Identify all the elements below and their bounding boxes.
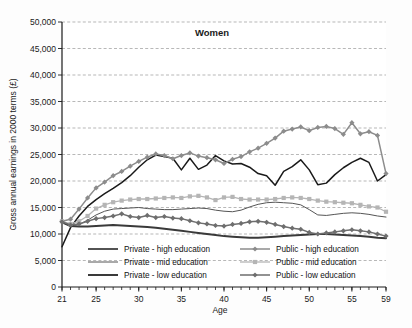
x-tick-label: 55	[347, 294, 357, 304]
data-point-marker	[103, 203, 107, 207]
data-point-marker	[299, 196, 303, 200]
data-point-marker	[324, 200, 328, 204]
data-point-marker	[316, 199, 320, 203]
x-tick-label: 25	[91, 294, 101, 304]
y-tick-label: 15,000	[30, 203, 56, 213]
x-tick-label: 50	[305, 294, 315, 304]
data-point-marker	[205, 195, 209, 199]
data-point-marker	[282, 196, 286, 200]
data-point-marker	[341, 201, 345, 205]
data-point-marker	[273, 197, 277, 201]
legend-label-4: Public - mid education	[276, 258, 357, 267]
data-point-marker	[111, 200, 115, 204]
x-tick-label: 21	[57, 294, 67, 304]
data-point-marker	[350, 201, 354, 205]
legend-label-3: Public - high education	[276, 245, 359, 254]
chart-figure: 05,00010,00015,00020,00025,00030,00035,0…	[0, 0, 412, 328]
data-point-marker	[333, 200, 337, 204]
y-tick-label: 5,000	[35, 256, 57, 266]
y-tick-label: 20,000	[30, 176, 56, 186]
data-point-marker	[290, 195, 294, 199]
data-point-marker	[120, 199, 124, 203]
y-tick-label: 50,000	[30, 17, 56, 27]
y-tick-label: 25,000	[30, 150, 56, 160]
x-tick-label: 35	[177, 294, 187, 304]
legend-label-0: Private - high education	[124, 245, 210, 254]
x-tick-label: 45	[262, 294, 272, 304]
x-tick-label: 30	[134, 294, 144, 304]
y-tick-label: 45,000	[30, 44, 56, 54]
data-point-marker	[239, 197, 243, 201]
y-tick-label: 10,000	[30, 229, 56, 239]
y-tick-label: 0	[51, 282, 56, 292]
data-point-marker	[265, 197, 269, 201]
legend-label-2: Private - low education	[124, 271, 207, 280]
y-tick-label: 40,000	[30, 70, 56, 80]
data-point-marker	[253, 260, 257, 264]
data-point-marker	[222, 195, 226, 199]
legend-label-1: Private - mid education	[124, 258, 208, 267]
data-point-marker	[256, 197, 260, 201]
data-point-marker	[128, 197, 132, 201]
x-axis-title: Age	[212, 305, 227, 315]
data-point-marker	[307, 197, 311, 201]
data-point-marker	[247, 197, 251, 201]
data-point-marker	[85, 214, 89, 218]
y-tick-label: 30,000	[30, 123, 56, 133]
data-point-marker	[162, 196, 166, 200]
data-point-marker	[375, 205, 379, 209]
data-point-marker	[171, 195, 175, 199]
y-tick-label: 35,000	[30, 97, 56, 107]
data-point-marker	[145, 197, 149, 201]
x-tick-label: 40	[219, 294, 229, 304]
earnings-line-chart: 05,00010,00015,00020,00025,00030,00035,0…	[0, 0, 412, 328]
data-point-marker	[154, 196, 158, 200]
data-point-marker	[94, 206, 98, 210]
data-point-marker	[196, 194, 200, 198]
x-tick-label: 59	[381, 294, 391, 304]
data-point-marker	[213, 198, 217, 202]
data-point-marker	[188, 194, 192, 198]
data-point-marker	[358, 203, 362, 207]
data-point-marker	[137, 197, 141, 201]
data-point-marker	[179, 196, 183, 200]
legend-label-5: Public - low education	[276, 271, 356, 280]
data-point-marker	[384, 210, 388, 214]
data-point-marker	[367, 204, 371, 208]
y-axis-title: Gross annual earnings in 2000 terms (£)	[8, 78, 18, 230]
data-point-marker	[230, 195, 234, 199]
chart-title: Women	[195, 27, 229, 38]
